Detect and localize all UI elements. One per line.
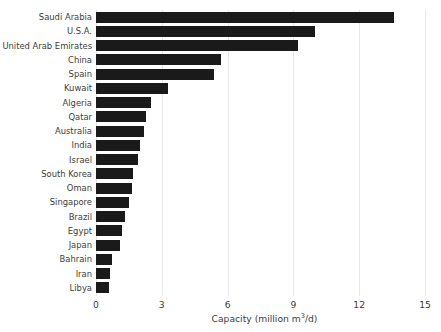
bar bbox=[96, 111, 146, 122]
bar bbox=[96, 83, 168, 94]
bar bbox=[96, 168, 133, 179]
bar-row: Singapore bbox=[96, 195, 425, 209]
bar bbox=[96, 26, 315, 37]
x-tick-label: 3 bbox=[159, 299, 165, 310]
category-label: Australia bbox=[55, 124, 92, 138]
gridline-15 bbox=[425, 10, 426, 296]
bar-row: Algeria bbox=[96, 96, 425, 110]
x-axis-title: Capacity (million m3/d) bbox=[0, 313, 441, 324]
bar bbox=[96, 268, 110, 279]
bar bbox=[96, 40, 298, 51]
bar bbox=[96, 240, 120, 251]
category-label: China bbox=[68, 53, 92, 67]
category-label: Egypt bbox=[68, 224, 92, 238]
x-tick-label: 12 bbox=[353, 299, 365, 310]
bar bbox=[96, 12, 394, 23]
category-label: Kuwait bbox=[64, 81, 92, 95]
bar bbox=[96, 254, 112, 265]
bar-row: United Arab Emirates bbox=[96, 39, 425, 53]
x-tick-label: 0 bbox=[93, 299, 99, 310]
category-label: Qatar bbox=[68, 110, 92, 124]
bar-row: Oman bbox=[96, 181, 425, 195]
category-label: Israel bbox=[69, 153, 92, 167]
bar-row: South Korea bbox=[96, 167, 425, 181]
category-label: Iran bbox=[76, 267, 92, 281]
category-label: Brazil bbox=[69, 210, 92, 224]
category-label: U.S.A. bbox=[67, 24, 92, 38]
bar-row: Iran bbox=[96, 267, 425, 281]
x-tick-label: 9 bbox=[290, 299, 296, 310]
bar-row: Japan bbox=[96, 238, 425, 252]
bar-chart: Saudi ArabiaU.S.A.United Arab EmiratesCh… bbox=[0, 0, 441, 332]
bar bbox=[96, 140, 140, 151]
category-label: Singapore bbox=[50, 195, 92, 209]
category-label: Algeria bbox=[63, 96, 92, 110]
category-label: Japan bbox=[69, 238, 92, 252]
bar-row: Brazil bbox=[96, 210, 425, 224]
category-label: Libya bbox=[70, 281, 92, 295]
category-label: India bbox=[71, 138, 92, 152]
bar-row: China bbox=[96, 53, 425, 67]
category-label: Oman bbox=[67, 181, 92, 195]
bar bbox=[96, 69, 214, 80]
bar bbox=[96, 183, 132, 194]
bar-row: U.S.A. bbox=[96, 24, 425, 38]
x-tick-label: 6 bbox=[225, 299, 231, 310]
bar bbox=[96, 126, 144, 137]
bar-row: Spain bbox=[96, 67, 425, 81]
bar-row: Saudi Arabia bbox=[96, 10, 425, 24]
bar-row: Australia bbox=[96, 124, 425, 138]
plot-area: Saudi ArabiaU.S.A.United Arab EmiratesCh… bbox=[96, 10, 425, 296]
category-label: Spain bbox=[69, 67, 92, 81]
bar-row: Qatar bbox=[96, 110, 425, 124]
bar-row: Bahrain bbox=[96, 252, 425, 266]
bar-row: Kuwait bbox=[96, 81, 425, 95]
category-label: Bahrain bbox=[60, 252, 92, 266]
bar bbox=[96, 154, 138, 165]
category-label: United Arab Emirates bbox=[2, 39, 92, 53]
bar-row: Egypt bbox=[96, 224, 425, 238]
bar bbox=[96, 282, 109, 293]
bar bbox=[96, 54, 221, 65]
category-label: Saudi Arabia bbox=[39, 10, 92, 24]
category-label: South Korea bbox=[41, 167, 92, 181]
bar-row: Libya bbox=[96, 281, 425, 295]
bar-row: India bbox=[96, 138, 425, 152]
bar-row: Israel bbox=[96, 153, 425, 167]
bar bbox=[96, 211, 125, 222]
x-tick-label: 15 bbox=[419, 299, 431, 310]
bar bbox=[96, 197, 129, 208]
bar bbox=[96, 97, 151, 108]
bar bbox=[96, 225, 122, 236]
